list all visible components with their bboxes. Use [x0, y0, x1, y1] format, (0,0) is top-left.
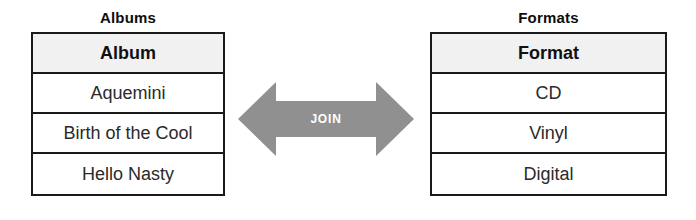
formats-column-header: Format [432, 34, 665, 74]
diagram-canvas: Albums Album Aquemini Birth of the Cool … [0, 0, 696, 220]
albums-table-title: Albums [31, 8, 225, 32]
join-connector: JOIN [238, 80, 414, 158]
albums-column-header: Album [33, 34, 223, 74]
albums-table: Album Aquemini Birth of the Cool Hello N… [31, 32, 225, 196]
double-arrow-icon [238, 80, 414, 158]
table-row: Aquemini [33, 74, 223, 114]
table-row: Vinyl [432, 114, 665, 154]
formats-table: Format CD Vinyl Digital [430, 32, 667, 196]
table-row: Digital [432, 154, 665, 194]
table-row: Hello Nasty [33, 154, 223, 194]
table-row: Birth of the Cool [33, 114, 223, 154]
table-row: CD [432, 74, 665, 114]
formats-table-title: Formats [430, 8, 667, 32]
albums-table-block: Albums Album Aquemini Birth of the Cool … [31, 8, 225, 196]
formats-table-block: Formats Format CD Vinyl Digital [430, 8, 667, 196]
